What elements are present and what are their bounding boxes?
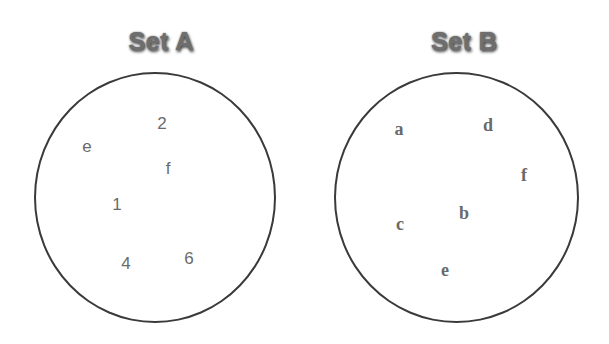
set-a-element: e — [82, 138, 91, 155]
set-b-circle — [334, 72, 579, 323]
set-a-element: 2 — [157, 115, 166, 132]
set-b-element: e — [441, 261, 449, 279]
set-a-element: 6 — [184, 250, 193, 267]
set-b-element: c — [396, 215, 404, 233]
set-a-element: 1 — [112, 196, 121, 213]
set-b-element: d — [483, 116, 493, 134]
set-a-element: f — [166, 160, 171, 177]
set-b-title: Set B — [431, 26, 497, 57]
set-b-element: b — [459, 204, 469, 222]
set-a-title: Set A — [128, 26, 194, 57]
set-a-circle — [34, 72, 276, 323]
set-b-element: a — [395, 120, 404, 138]
set-a-element: 4 — [121, 255, 130, 272]
set-b-element: f — [521, 166, 527, 184]
